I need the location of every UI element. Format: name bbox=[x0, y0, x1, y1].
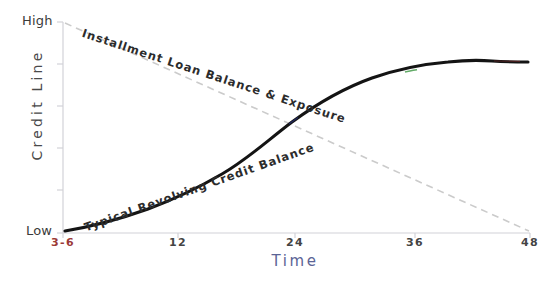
y-axis-low-label: Low bbox=[26, 224, 52, 237]
series-artifact-blue bbox=[289, 118, 298, 124]
chart-plot-area bbox=[0, 0, 559, 295]
y-axis-ticks bbox=[57, 22, 63, 233]
x-axis-tick-label-2: 24 bbox=[265, 237, 325, 248]
x-axis-tick-label-0: 3-6 bbox=[33, 237, 93, 248]
x-axis-tick-label-4: 48 bbox=[500, 237, 559, 248]
x-axis-tick-label-1: 12 bbox=[148, 237, 208, 248]
series-artifact-green bbox=[405, 70, 417, 72]
x-axis-tick-label-3: 36 bbox=[385, 237, 445, 248]
y-axis-title: Credit Line bbox=[30, 0, 52, 215]
x-axis-title: Time bbox=[230, 254, 360, 269]
credit-line-chart: High Low Credit Line 3-6 12 24 36 48 Tim… bbox=[0, 0, 559, 295]
